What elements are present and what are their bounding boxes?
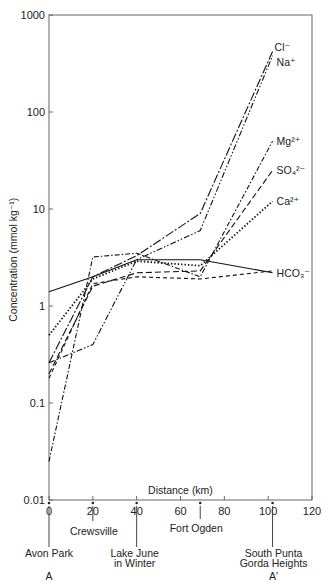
series-ca2-	[49, 201, 273, 335]
location-south-punta-2: Gorda Heights	[240, 557, 308, 569]
series-cl-	[49, 52, 273, 363]
x-axis-title: Distance (km)	[148, 484, 213, 496]
location-lake-june-2: in Winter	[114, 557, 156, 569]
x-tick-label: 60	[174, 505, 186, 517]
location-dot	[92, 502, 95, 505]
location-dot	[135, 502, 138, 505]
location-crewsville: Crewsville	[70, 525, 118, 537]
section-start-label: A	[45, 570, 52, 582]
y-tick-label: 0.1	[30, 397, 45, 409]
plot-frame	[49, 15, 312, 500]
y-axis-title: Concentration (mmol kg⁻¹)	[7, 198, 19, 322]
section-end-label: A′	[269, 570, 278, 582]
location-avon-park: Avon Park	[25, 547, 74, 559]
y-tick-label: 0.01	[24, 494, 45, 506]
location-dot	[271, 502, 274, 505]
series-label: HCO₃⁻	[277, 267, 310, 279]
series-so4-2-	[49, 170, 273, 373]
location-fort-ogden: Fort Ogden	[170, 522, 223, 534]
series-mg2-	[49, 141, 273, 461]
location-dot	[199, 502, 202, 505]
x-tick-label: 100	[259, 505, 277, 517]
y-tick-label: 100	[27, 106, 45, 118]
y-tick-label: 1000	[21, 9, 45, 21]
series-label: Cl⁻	[275, 41, 290, 53]
y-tick-label: 1	[39, 300, 45, 312]
chart: 0.010.11101001000020406080100120Distance…	[0, 0, 328, 586]
series-na-	[49, 56, 273, 363]
series-label: SO₄²⁻	[277, 164, 306, 176]
x-tick-label: 80	[218, 505, 230, 517]
location-dot	[48, 502, 51, 505]
x-tick-label: 120	[303, 505, 321, 517]
series-hco3-	[49, 260, 273, 292]
y-tick-label: 10	[33, 203, 45, 215]
series-label: Na⁺	[277, 56, 296, 68]
series-pre-so4-dashed	[49, 271, 273, 378]
series-label: Ca²⁺	[277, 195, 299, 207]
series-label: Mg²⁺	[277, 135, 301, 147]
